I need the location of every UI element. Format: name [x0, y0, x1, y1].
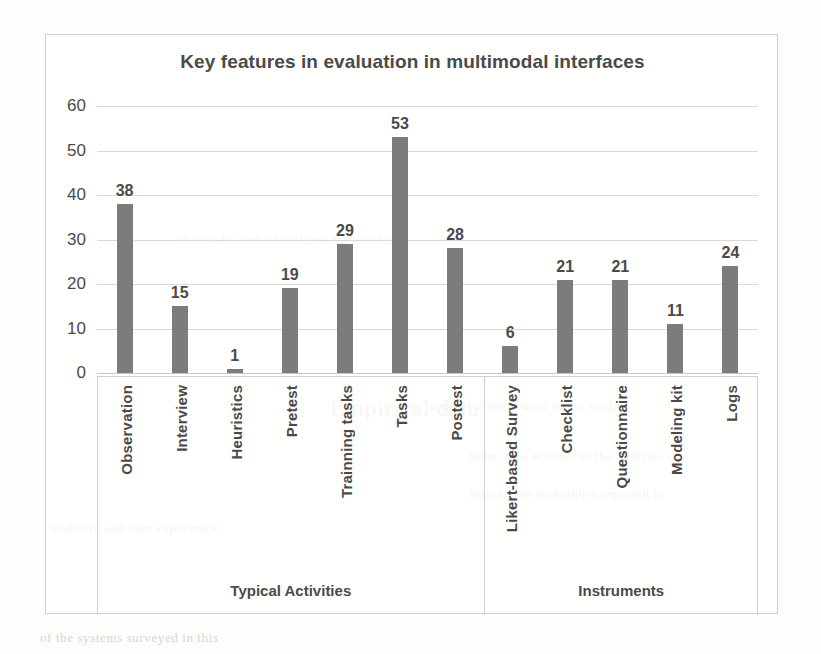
bar-value-label: 11 [667, 302, 684, 320]
bar[interactable]: 28 [447, 248, 463, 373]
category-label[interactable]: Interview [173, 385, 190, 452]
bar-value-label: 1 [230, 347, 239, 365]
category-label[interactable]: Tasks [393, 385, 410, 427]
gridline: 20 [97, 284, 758, 285]
bar-value-label: 53 [391, 115, 409, 133]
bar[interactable]: 53 [392, 137, 408, 373]
gridline: 10 [97, 329, 758, 330]
category-label[interactable]: Checklist [558, 385, 575, 454]
category-label-box: ObservationInterviewHeuristicsPretestTra… [97, 376, 758, 615]
bar[interactable]: 21 [612, 280, 628, 373]
bar[interactable]: 29 [337, 244, 353, 373]
bar-value-label: 21 [556, 258, 574, 276]
bar[interactable]: 11 [667, 324, 683, 373]
bar[interactable]: 6 [502, 346, 518, 373]
y-axis-tick-label: 20 [67, 274, 86, 294]
bar-value-label: 6 [506, 324, 515, 342]
category-label[interactable]: Observation [118, 385, 135, 475]
category-label[interactable]: Pretest [283, 385, 300, 437]
bar-value-label: 19 [281, 266, 299, 284]
bar-value-label: 21 [611, 258, 629, 276]
category-label[interactable]: Postest [448, 385, 465, 441]
gridline: 40 [97, 195, 758, 196]
bar[interactable]: 38 [117, 204, 133, 373]
group-label: Typical Activities [98, 582, 484, 599]
category-label[interactable]: Questionnaire [613, 385, 630, 488]
bar-value-label: 28 [446, 226, 464, 244]
category-label[interactable]: Modeling kit [668, 385, 685, 475]
scanned-page-background: the evaluation of multimodal interfaces … [0, 0, 821, 654]
y-axis-tick-label: 30 [67, 230, 86, 250]
y-axis-tick-label: 60 [67, 96, 86, 116]
group-label: Instruments [484, 582, 759, 599]
bar-value-label: 24 [722, 244, 740, 262]
chart-title: Key features in evaluation in multimodal… [46, 51, 779, 73]
plot-area: 01020304050603815119295328621211124 [97, 106, 758, 373]
y-axis-tick-label: 50 [67, 141, 86, 161]
gridline: 0 [97, 373, 758, 374]
gridline: 30 [97, 240, 758, 241]
y-axis-tick-label: 10 [67, 319, 86, 339]
gridline: 60 [97, 106, 758, 107]
group-divider [484, 377, 485, 615]
y-axis-tick-label: 0 [77, 363, 86, 383]
bar-value-label: 38 [116, 182, 134, 200]
bar[interactable]: 15 [172, 306, 188, 373]
category-label[interactable]: Logs [723, 385, 740, 422]
gridline: 50 [97, 151, 758, 152]
bar[interactable]: 19 [282, 288, 298, 373]
y-axis-tick-label: 40 [67, 185, 86, 205]
ghost-text-line: of the systems surveyed in this [40, 630, 219, 646]
bar[interactable]: 21 [557, 280, 573, 373]
bar-value-label: 15 [171, 284, 189, 302]
bar[interactable]: 1 [227, 369, 243, 373]
category-label[interactable]: Likert-based Survey [503, 385, 520, 532]
category-label[interactable]: Heuristics [228, 385, 245, 460]
bar[interactable]: 24 [722, 266, 738, 373]
category-label[interactable]: Trainning tasks [338, 385, 355, 498]
chart-container: Key features in evaluation in multimodal… [45, 34, 778, 614]
bar-value-label: 29 [336, 222, 354, 240]
